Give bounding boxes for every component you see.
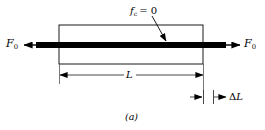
force-label-right: F0 xyxy=(244,38,256,51)
central-bar xyxy=(36,42,226,48)
force-label-right-subscript: 0 xyxy=(252,43,256,51)
figure-caption: (a) xyxy=(125,112,138,122)
force-label-left-subscript: 0 xyxy=(14,43,18,51)
constraint-label-relation: = 0 xyxy=(139,5,157,16)
elongation-dimension-label: ΔL xyxy=(229,92,243,102)
force-label-right-symbol: F xyxy=(244,37,252,50)
figure-axial-bar-tension: F0 F0 fc= 0 L ΔL (a) xyxy=(0,0,265,130)
length-dimension-label: L xyxy=(126,70,133,80)
constraint-label: fc= 0 xyxy=(130,6,157,17)
constraint-label-subscript: c xyxy=(134,10,137,17)
constraint-leader-arrow xyxy=(152,16,166,41)
force-label-left-symbol: F xyxy=(6,37,14,50)
force-label-left: F0 xyxy=(6,38,18,51)
elongation-length-symbol: L xyxy=(236,91,243,102)
